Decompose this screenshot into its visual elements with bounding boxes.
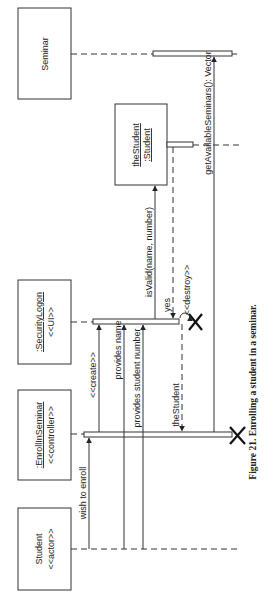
student-label: Student <box>34 533 44 565</box>
svg-text:provides name: provides name <box>113 320 123 379</box>
message-isvalid: isValid(name, number) <box>144 186 155 319</box>
svg-text:<<destroy>>: <<destroy>> <box>182 265 192 316</box>
enrollinseminar-label: :EnrollInSeminar <box>34 402 44 469</box>
thestudent-activation <box>167 142 193 147</box>
svg-text:yes: yes <box>162 298 172 313</box>
message-thestudent-return: theStudent <box>171 324 182 431</box>
figure-caption: Figure 21. Enrolling a student in a semi… <box>248 304 258 479</box>
enrollinseminar-activation <box>84 432 232 437</box>
student-box <box>18 508 71 590</box>
svg-text:<<create>>: <<create>> <box>88 352 98 398</box>
securitylogon-activation <box>93 319 179 324</box>
svg-text:theStudent: theStudent <box>171 383 181 427</box>
thestudent-class-label: :Student <box>142 128 152 162</box>
participant-securitylogon: :SecurityLogon <<UI>> <box>18 280 202 364</box>
securitylogon-label: :SecurityLogon <box>34 292 44 352</box>
securitylogon-stereotype: <<UI>> <box>46 307 56 337</box>
message-destroy: <<destroy>> <box>180 265 192 318</box>
enrollinseminar-stereotype: <<controller>> <box>46 406 56 464</box>
svg-text:getAvailableSeminars(): Vector: getAvailableSeminars(): Vector <box>203 51 213 174</box>
thestudent-box <box>115 104 167 185</box>
participant-thestudent: theStudent :Student <box>115 104 241 185</box>
thestudent-label: theStudent <box>131 123 141 167</box>
sequence-diagram: Seminar theStudent :Student :SecurityLog… <box>0 0 277 606</box>
securitylogon-destroy-x-icon <box>189 314 202 330</box>
message-getavailableseminars: getAvailableSeminars(): Vector <box>203 51 214 432</box>
participant-student: Student <<actor>> <box>18 508 241 590</box>
enrollinseminar-box <box>18 390 71 480</box>
seminar-activation <box>153 51 232 56</box>
message-wish-to-enroll: wish to enroll <box>78 438 89 549</box>
securitylogon-box <box>18 280 71 364</box>
svg-text:isValid(name, number): isValid(name, number) <box>144 207 154 297</box>
svg-text:wish to enroll: wish to enroll <box>78 467 88 521</box>
message-create: <<create>> <box>88 325 99 432</box>
svg-text:provides student number: provides student number <box>132 328 142 427</box>
student-stereotype: <<actor>> <box>46 528 56 569</box>
seminar-label: Seminar <box>40 37 50 71</box>
